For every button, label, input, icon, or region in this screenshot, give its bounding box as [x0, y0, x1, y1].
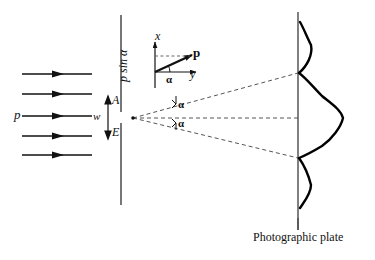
- diffraction-angle-lower-label: α: [178, 118, 184, 129]
- vector-angle-label: α: [166, 74, 172, 85]
- ray-upper: [133, 73, 298, 118]
- momentum-vector-diagram: [155, 42, 196, 88]
- axis-y-label: y: [190, 68, 195, 80]
- beam-arrowhead: [52, 133, 64, 140]
- beam-arrowhead: [52, 91, 64, 98]
- slit-width-arrowhead-top: [105, 96, 111, 104]
- momentum-vector-label: p: [193, 46, 200, 59]
- ray-lower: [133, 118, 298, 158]
- beam-arrowhead: [52, 152, 64, 159]
- beam-arrowhead: [52, 113, 64, 120]
- single-slit-diffraction-figure: p w A E x y p α p sin α α α Photographic…: [0, 0, 375, 260]
- photographic-plate-caption: Photographic plate: [253, 231, 343, 243]
- axis-x-label: x: [155, 30, 160, 42]
- slit-width-arrow: [105, 96, 111, 139]
- slit-width-arrowhead-bottom: [105, 131, 111, 139]
- slit-width-label: w: [93, 111, 100, 122]
- angle-tick-marks: [172, 96, 176, 130]
- transverse-momentum-label: p sin α: [117, 50, 129, 82]
- slit-top-label: A: [112, 94, 119, 106]
- diffraction-angle-upper-label: α: [178, 99, 184, 110]
- beam-arrowheads: [52, 71, 64, 159]
- diagram-canvas: [0, 0, 375, 260]
- incident-momentum-label: p: [14, 108, 21, 121]
- diffraction-rays: [133, 73, 298, 158]
- slit-bottom-label: E: [112, 126, 119, 138]
- angle-bracket-lower: [172, 119, 176, 127]
- beam-arrowhead: [52, 71, 64, 78]
- slit-apex-point: [131, 116, 135, 120]
- diffraction-intensity-curve: [299, 22, 343, 208]
- momentum-vector-arrow: [155, 55, 192, 72]
